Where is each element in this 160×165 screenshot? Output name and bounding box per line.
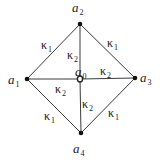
edge-a2-a3	[80, 24, 135, 78]
node-label-a4-subscript: 4	[81, 149, 85, 158]
node-label-a1-base: a	[8, 72, 15, 87]
edge-label-a0-a3-subscript: 2	[107, 71, 111, 80]
edge-label-a0-a4-subscript: 2	[89, 104, 93, 113]
node-label-a1-subscript: 1	[16, 80, 20, 89]
node-label-a4-base: a	[73, 141, 80, 156]
node-label-a3-base: a	[140, 70, 147, 85]
node-a1	[25, 77, 30, 82]
edge-label-a3-a4-base: κ	[108, 106, 114, 120]
edge-label-a0-a4-base: κ	[82, 97, 88, 111]
lattice-diagram: κ1κ1κ1κ1κ2κ2κ2κ2a0a1a2a3a4	[0, 0, 160, 165]
edge-label-a0-a4: κ2	[82, 97, 93, 113]
node-label-a1: a1	[8, 72, 20, 89]
node-label-a2-subscript: 2	[80, 8, 84, 17]
edge-label-a0-a3: κ2	[100, 64, 111, 80]
edge-label-a0-a2: κ2	[67, 48, 78, 64]
edge-label-a3-a4: κ1	[108, 106, 119, 122]
edge-label-a0-a2-base: κ	[67, 48, 73, 62]
edge-label-a0-a1: κ2	[55, 82, 66, 98]
edge-label-a1-a2: κ1	[41, 38, 52, 54]
edge-label-a0-a1-subscript: 2	[62, 89, 66, 98]
node-a3	[133, 76, 138, 81]
edge-label-a0-a1-base: κ	[55, 82, 61, 96]
node-a4	[79, 131, 84, 136]
node-label-a0-subscript: 0	[83, 72, 87, 81]
node-label-a4: a4	[73, 141, 85, 158]
node-label-a2-base: a	[72, 0, 79, 15]
edge-label-a4-a1-subscript: 1	[51, 116, 55, 125]
node-label-a3: a3	[140, 70, 152, 87]
node-label-a0-base: a	[75, 64, 82, 79]
edge-label-a2-a3: κ1	[107, 36, 118, 52]
node-label-a0: a0	[75, 64, 87, 81]
edge-label-a2-a3-subscript: 1	[114, 43, 118, 52]
edge-label-a1-a2-subscript: 1	[48, 45, 52, 54]
edge-label-a0-a3-base: κ	[100, 64, 106, 78]
node-label-a3-subscript: 3	[148, 78, 152, 87]
edge-label-a3-a4-subscript: 1	[115, 113, 119, 122]
node-label-a2: a2	[72, 0, 84, 17]
edge-label-a2-a3-base: κ	[107, 36, 113, 50]
edge-label-a4-a1-base: κ	[44, 109, 50, 123]
edge-a0-a4	[80, 79, 81, 133]
edge-label-a0-a2-subscript: 2	[74, 55, 78, 64]
edge-label-a1-a2-base: κ	[41, 38, 47, 52]
edge-label-a4-a1: κ1	[44, 109, 55, 125]
node-a2	[78, 22, 83, 27]
